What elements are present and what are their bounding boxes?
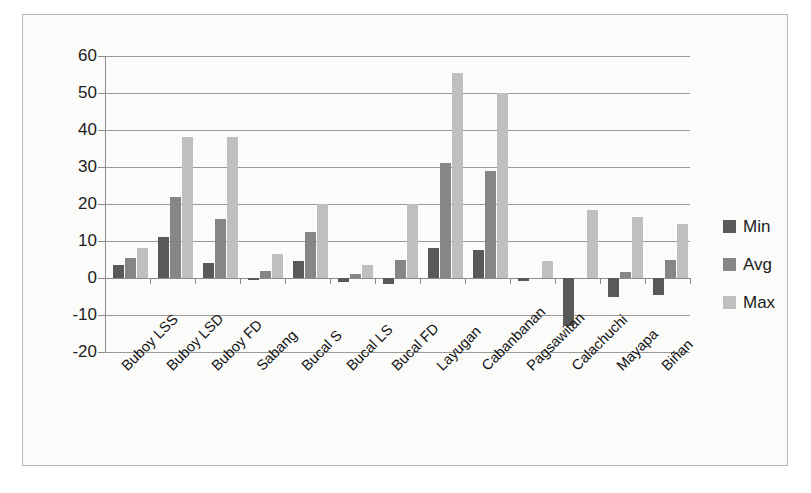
y-axis-tick [98, 315, 105, 316]
legend-item[interactable]: Max [723, 283, 793, 321]
y-axis-tick [98, 130, 105, 131]
bar-max [497, 93, 508, 278]
y-axis-tick-label: 10 [51, 232, 97, 249]
x-axis-tick [690, 278, 691, 284]
x-axis-tick [150, 278, 151, 284]
bar-max [677, 224, 688, 278]
bar-max [452, 73, 463, 278]
x-axis-category-labels: Buboy LSSBuboy LSDBuboy FDSabangBucal SB… [105, 359, 705, 469]
x-axis-tick [510, 278, 511, 284]
legend-label: Avg [743, 256, 772, 273]
legend-label: Min [743, 218, 770, 235]
bar-max [542, 261, 553, 278]
y-axis-tick-label: 30 [51, 158, 97, 175]
y-axis-tick [98, 56, 105, 57]
x-axis-tick [330, 278, 331, 284]
bar-min [383, 278, 394, 284]
y-axis-tick-label: 0 [51, 269, 97, 286]
bar-min [653, 278, 664, 295]
bar-group [338, 56, 374, 352]
bar-group [563, 56, 599, 352]
bar-max [587, 210, 598, 278]
x-axis-tick [645, 278, 646, 284]
x-axis-tick [465, 278, 466, 284]
legend-swatch-icon [723, 258, 736, 271]
bar-min [608, 278, 619, 297]
x-axis-tick [285, 278, 286, 284]
y-axis-tick [98, 278, 105, 279]
bar-max [317, 204, 328, 278]
y-axis-tick [98, 241, 105, 242]
bar-max [407, 204, 418, 278]
y-axis-tick-label: 20 [51, 195, 97, 212]
bar-min [158, 237, 169, 278]
bar-avg [305, 232, 316, 278]
bar-min [338, 278, 349, 282]
x-axis-tick [195, 278, 196, 284]
legend-swatch-icon [723, 296, 736, 309]
bar-avg [215, 219, 226, 278]
y-axis-tick [98, 204, 105, 205]
x-axis-tick [375, 278, 376, 284]
legend-item[interactable]: Avg [723, 245, 793, 283]
plot-area [105, 56, 690, 352]
y-axis-tick-labels: 6050403020100-10-20 [39, 15, 97, 467]
bar-max [632, 217, 643, 278]
bar-group [203, 56, 239, 352]
bar-group [248, 56, 284, 352]
bar-avg [260, 271, 271, 278]
x-axis-tick [240, 278, 241, 284]
bar-max [182, 137, 193, 278]
y-axis-tick-label: 60 [51, 47, 97, 64]
bar-avg [620, 272, 631, 278]
bar-min [248, 278, 259, 280]
bar-avg [440, 163, 451, 278]
bar-max [227, 137, 238, 278]
y-axis-tick-label: 50 [51, 84, 97, 101]
bar-avg [170, 197, 181, 278]
x-axis-tick [105, 278, 106, 284]
legend-label: Max [743, 294, 775, 311]
bar-group [473, 56, 509, 352]
bar-group [428, 56, 464, 352]
y-axis-tick [98, 93, 105, 94]
y-axis-tick-label: -10 [51, 306, 97, 323]
y-axis-tick [98, 352, 105, 353]
x-axis-tick [555, 278, 556, 284]
bar-avg [395, 260, 406, 279]
legend-item[interactable]: Min [723, 207, 793, 245]
y-axis-tick [98, 167, 105, 168]
chart-frame: 6050403020100-10-20 Buboy LSSBuboy LSDBu… [22, 14, 788, 466]
bar-group [113, 56, 149, 352]
bar-max [272, 254, 283, 278]
y-axis-tick-label: 40 [51, 121, 97, 138]
bar-group [608, 56, 644, 352]
bar-min [203, 263, 214, 278]
bar-min [113, 265, 124, 278]
legend-swatch-icon [723, 220, 736, 233]
y-axis-tick-label: -20 [51, 343, 97, 360]
bar-group [383, 56, 419, 352]
x-axis-tick [600, 278, 601, 284]
chart-legend: MinAvgMax [723, 207, 793, 321]
bar-min [428, 248, 439, 278]
bar-min [293, 261, 304, 278]
bar-group [293, 56, 329, 352]
bar-group [158, 56, 194, 352]
bar-avg [350, 274, 361, 278]
bar-min [473, 250, 484, 278]
x-axis-tick [420, 278, 421, 284]
bar-group [653, 56, 689, 352]
bar-avg [125, 258, 136, 278]
bar-max [362, 265, 373, 278]
bar-max [137, 248, 148, 278]
bar-avg [665, 260, 676, 279]
bar-min [518, 278, 529, 281]
bar-avg [485, 171, 496, 278]
